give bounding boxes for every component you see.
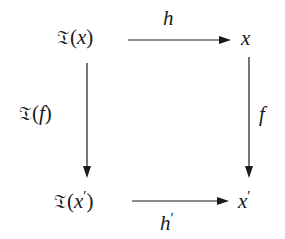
node-T-of-x: 𝔗(x) xyxy=(57,27,93,48)
arrow-h-prime-bottom xyxy=(132,197,229,205)
arrowhead-icon xyxy=(245,166,253,178)
arrowhead-icon xyxy=(83,166,91,178)
label-T-of-f: 𝔗(f) xyxy=(19,103,52,124)
label-h: h xyxy=(163,8,174,29)
node-x-prime: x′ xyxy=(238,189,251,212)
node-x: x xyxy=(241,28,250,49)
label-h-prime: h′ xyxy=(160,211,174,234)
arrow-tf-left xyxy=(83,63,91,178)
label-f: f xyxy=(259,104,265,125)
node-T-of-x-prime: 𝔗(x′) xyxy=(54,189,94,212)
arrow-h-top xyxy=(128,36,231,44)
fraktur-T-symbol: 𝔗 xyxy=(54,190,67,212)
fraktur-T-symbol: 𝔗 xyxy=(19,102,32,124)
arrowhead-icon xyxy=(217,197,229,205)
arrow-f-right xyxy=(245,57,253,178)
commutative-diagram: 𝔗(x) h x 𝔗(f) f 𝔗(x′) h′ x′ xyxy=(0,0,285,239)
fraktur-T-symbol: 𝔗 xyxy=(57,26,70,48)
arrowhead-icon xyxy=(219,36,231,44)
